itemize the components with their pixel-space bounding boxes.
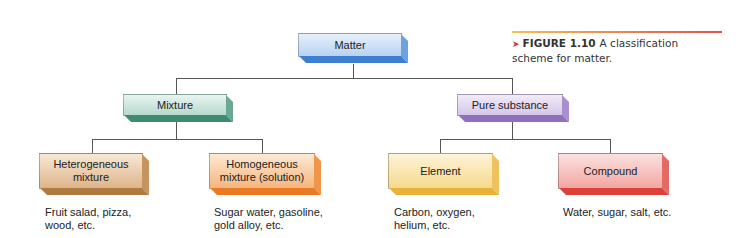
connector-pure-up [512, 78, 513, 94]
node-label: Mixture [153, 99, 197, 112]
caption-rule [512, 31, 722, 33]
connector-hetero-up [92, 139, 93, 153]
connector-root-down [353, 64, 354, 78]
connector-level1-horizontal [176, 78, 513, 79]
node-label: Matter [330, 39, 369, 52]
node-label: Pure substance [468, 99, 552, 112]
example-homogeneous: Sugar water, gasoline,gold alloy, etc. [214, 206, 323, 232]
node-heterogeneous-mixture: Heterogeneousmixture [39, 153, 143, 189]
example-heterogeneous: Fruit salad, pizza,wood, etc. [45, 206, 131, 232]
arrow-marker-icon: ➤ [512, 39, 520, 49]
connector-pure-horizontal [440, 139, 611, 140]
node-label: Heterogeneousmixture [49, 158, 132, 184]
figure-caption: ➤FIGURE 1.10A classification scheme for … [512, 36, 722, 65]
node-label: Element [416, 165, 464, 178]
node-mixture: Mixture [123, 94, 227, 116]
connector-homo-up [262, 139, 263, 153]
example-element: Carbon, oxygen,helium, etc. [394, 206, 475, 232]
connector-compound-up [610, 139, 611, 153]
node-compound: Compound [558, 153, 663, 189]
node-homogeneous-mixture: Homogeneousmixture (solution) [209, 153, 315, 189]
connector-element-up [440, 139, 441, 153]
example-compound: Water, sugar, salt, etc. [563, 206, 671, 219]
node-element: Element [388, 153, 493, 189]
connector-mixture-up [176, 78, 177, 94]
connector-mixture-horizontal [92, 139, 263, 140]
connector-mixture-down [176, 122, 177, 139]
node-label: Compound [580, 165, 642, 178]
node-label: Homogeneousmixture (solution) [216, 158, 308, 184]
connector-pure-down [512, 122, 513, 139]
node-pure-substance: Pure substance [457, 94, 563, 116]
node-matter: Matter [298, 33, 402, 57]
figure-label: FIGURE 1.10 [523, 37, 596, 49]
